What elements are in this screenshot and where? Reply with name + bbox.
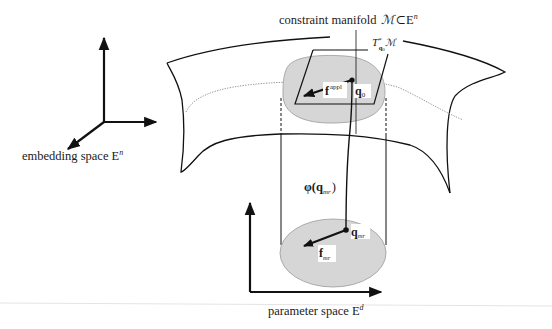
constraint-manifold-label: constraint manifoldℳ⊂En: [279, 12, 418, 27]
embedding-axis-diag-icon: [68, 122, 104, 149]
parameter-space-label: parameter space Ed: [268, 303, 365, 318]
embedding-space-label: embedding space En: [22, 148, 123, 163]
phi-label: φ(qmr): [304, 180, 336, 196]
embedding-space-axes: [68, 38, 156, 149]
tangent-space-label: T*q0ℳ: [372, 36, 397, 52]
constraint-manifold-diagram: embedding space En constraint manifoldℳ⊂…: [0, 0, 552, 329]
